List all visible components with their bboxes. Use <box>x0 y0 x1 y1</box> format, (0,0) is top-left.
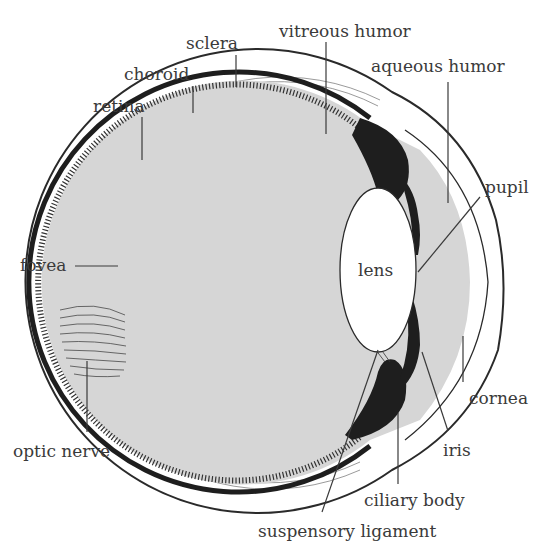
label-sclera: sclera <box>186 33 238 53</box>
label-cornea: cornea <box>469 388 528 408</box>
label-ciliary-body: ciliary body <box>364 490 465 510</box>
label-suspensory-ligament: suspensory ligament <box>258 521 436 541</box>
label-optic-nerve: optic nerve <box>13 441 110 461</box>
label-retina: retina <box>93 96 145 116</box>
label-pupil: pupil <box>485 177 529 197</box>
eye-anatomy-diagram: sclera choroid retina vitreous humor aqu… <box>0 0 546 556</box>
label-aqueous-humor: aqueous humor <box>371 56 506 76</box>
label-iris: iris <box>443 440 471 460</box>
label-fovea: fovea <box>20 255 66 275</box>
label-vitreous-humor: vitreous humor <box>278 21 412 41</box>
label-lens: lens <box>358 260 393 280</box>
label-choroid: choroid <box>124 64 190 84</box>
